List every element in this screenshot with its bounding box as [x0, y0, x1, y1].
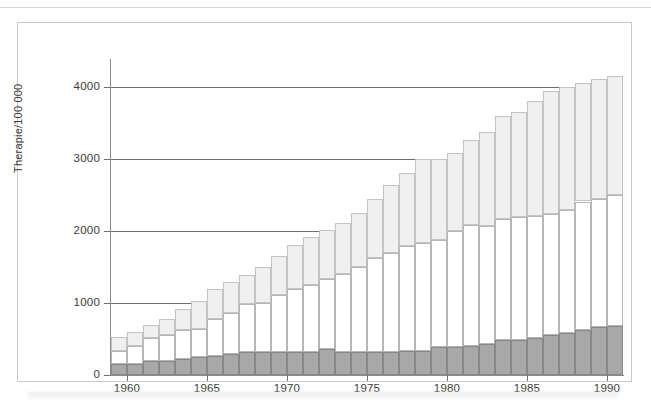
bar-segment [319, 349, 335, 375]
y-axis-title: Therapie/100 000 [12, 33, 24, 173]
bar-segment [415, 243, 431, 351]
bar-segment [591, 79, 607, 199]
bar-segment [383, 352, 399, 375]
bar-segment [351, 352, 367, 375]
bar-segment [383, 185, 399, 253]
bar-segment [351, 267, 367, 352]
bar-segment [335, 223, 351, 273]
bar-segment [111, 364, 127, 375]
bar-segment [143, 361, 159, 375]
bar-segment [303, 352, 319, 375]
y-tick-label: 3000 [74, 153, 100, 164]
bar-segment [351, 213, 367, 268]
bar-segment [527, 338, 543, 375]
bar-1974 [351, 59, 367, 375]
bar-segment [239, 275, 255, 304]
bar-1983 [495, 59, 511, 375]
bar-1987 [559, 59, 575, 375]
bar-1972 [319, 59, 335, 375]
bar-1961 [143, 59, 159, 375]
page-top-rule [0, 7, 651, 8]
bar-segment [575, 330, 591, 375]
bar-segment [303, 285, 319, 352]
bar-segment [159, 361, 175, 375]
bar-segment [127, 364, 143, 375]
bar-segment [207, 289, 223, 319]
y-tick-label: 1000 [74, 297, 100, 308]
bar-1964 [191, 59, 207, 375]
bar-1984 [511, 59, 527, 375]
bar-segment [287, 245, 303, 288]
bar-segment [191, 329, 207, 358]
bar-segment [159, 319, 175, 336]
bar-segment [143, 338, 159, 361]
plot-area [111, 59, 620, 375]
bar-1970 [287, 59, 303, 375]
bar-segment [479, 132, 495, 226]
bar-1985 [527, 59, 543, 375]
figure-frame: 01000200030004000 Therapie/100 000 19601… [17, 22, 632, 382]
bar-segment [511, 112, 527, 218]
bar-segment [127, 346, 143, 364]
bar-1969 [271, 59, 287, 375]
bar-segment [479, 344, 495, 375]
bar-1965 [207, 59, 223, 375]
bar-segment [319, 230, 335, 279]
bar-segment [223, 282, 239, 313]
bar-segment [591, 327, 607, 375]
bar-segment [287, 352, 303, 375]
bar-1968 [255, 59, 271, 375]
bar-segment [287, 289, 303, 352]
bar-segment [175, 330, 191, 359]
bar-segment [223, 354, 239, 375]
bar-segment [559, 87, 575, 210]
bar-segment [111, 337, 127, 351]
bar-segment [207, 319, 223, 356]
x-tick-mark [127, 375, 128, 381]
bar-segment [463, 225, 479, 346]
bar-1980 [447, 59, 463, 375]
bar-segment [495, 340, 511, 375]
bar-segment [415, 159, 431, 243]
bar-segment [383, 253, 399, 352]
bar-1966 [223, 59, 239, 375]
bar-segment [431, 159, 447, 240]
bar-1967 [239, 59, 255, 375]
bar-segment [607, 326, 623, 375]
bar-segment [495, 219, 511, 341]
bar-1979 [431, 59, 447, 375]
bar-1960 [127, 59, 143, 375]
bar-segment [447, 347, 463, 375]
bar-segment [335, 352, 351, 375]
bar-segment [367, 352, 383, 375]
bar-segment [575, 202, 591, 331]
bar-segment [271, 352, 287, 375]
bar-segment [399, 246, 415, 351]
bar-segment [431, 347, 447, 375]
x-tick-mark [207, 375, 208, 381]
y-tick-label: 2000 [74, 225, 100, 236]
bar-1990 [607, 59, 623, 375]
bar-segment [591, 199, 607, 327]
bar-1977 [399, 59, 415, 375]
bar-1976 [383, 59, 399, 375]
bar-segment [223, 313, 239, 354]
bar-segment [175, 309, 191, 330]
bar-segment [271, 256, 287, 295]
bar-segment [239, 352, 255, 375]
bar-segment [239, 304, 255, 352]
x-tick-mark [287, 375, 288, 381]
bar-1982 [479, 59, 495, 375]
bar-1959 [111, 59, 127, 375]
bar-segment [559, 333, 575, 375]
bar-segment [255, 267, 271, 303]
bar-segment [511, 340, 527, 375]
bar-segment [303, 237, 319, 285]
bar-segment [463, 140, 479, 226]
bar-segment [575, 83, 591, 201]
bar-segment [447, 153, 463, 231]
x-tick-mark [527, 375, 528, 381]
bar-segment [335, 274, 351, 352]
bar-segment [447, 231, 463, 347]
bar-segment [271, 295, 287, 352]
